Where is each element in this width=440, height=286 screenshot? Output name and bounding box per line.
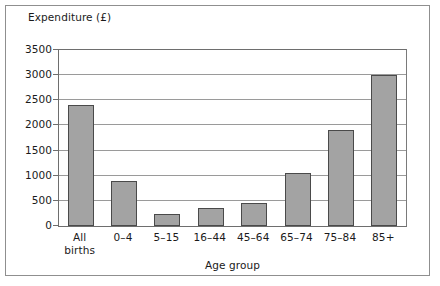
x-tick-label: 5–15 (145, 231, 188, 244)
bar (68, 105, 94, 226)
y-tick-label: 2500 (0, 93, 52, 105)
bar (371, 75, 397, 226)
x-tick-label: Allbirths (58, 231, 101, 257)
y-axis-tick-labels: 0500100015002000250030003500 (0, 49, 52, 227)
y-axis-title: Expenditure (£) (28, 11, 111, 23)
bar-chart-figure: Expenditure (£) 050010001500200025003000… (0, 0, 440, 286)
plot-area (58, 49, 407, 227)
bar (154, 214, 180, 226)
x-tick-label: 45–64 (232, 231, 275, 244)
x-axis-title: Age group (58, 259, 407, 271)
x-tick-label: 65–74 (275, 231, 318, 244)
bar (198, 208, 224, 226)
y-tick-label: 3000 (0, 68, 52, 80)
x-tick-label: 75–84 (318, 231, 361, 244)
bar (111, 181, 137, 226)
bar (241, 203, 267, 226)
y-tick-label: 2000 (0, 118, 52, 130)
bar (328, 130, 354, 226)
y-tick-label: 3500 (0, 43, 52, 55)
y-tick-label: 500 (0, 194, 52, 206)
x-tick-label: 0–4 (101, 231, 144, 244)
y-tick-label: 1000 (0, 169, 52, 181)
y-tick-label: 1500 (0, 144, 52, 156)
bar-series (59, 50, 406, 226)
y-tick-label: 0 (0, 219, 52, 231)
bar (285, 173, 311, 226)
x-tick-label: 85+ (362, 231, 405, 244)
x-tick-label: 16–44 (188, 231, 231, 244)
